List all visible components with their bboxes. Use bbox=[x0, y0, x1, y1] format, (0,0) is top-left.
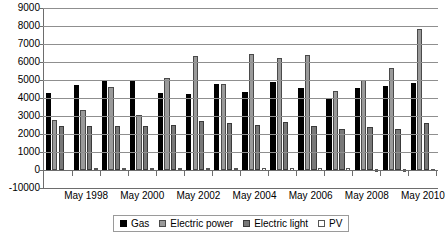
bar-gas bbox=[242, 92, 247, 170]
bar-gas bbox=[102, 80, 107, 170]
legend-swatch-epower-icon bbox=[159, 220, 166, 227]
y-tick-label: 7000 bbox=[18, 39, 40, 49]
y-tick-5000 bbox=[39, 80, 43, 81]
legend-item-epower[interactable]: Electric power bbox=[159, 219, 233, 229]
bar-epower bbox=[361, 80, 366, 170]
gridline--10000 bbox=[43, 188, 438, 189]
gridline-6000 bbox=[43, 62, 438, 63]
y-tick-3000 bbox=[39, 116, 43, 117]
bar-epower bbox=[333, 91, 338, 170]
gridline-0 bbox=[43, 170, 438, 171]
x-tick-label: May 2010 bbox=[401, 190, 445, 202]
bar-gas bbox=[158, 93, 163, 170]
bar-elight bbox=[115, 126, 120, 170]
bar-elight bbox=[283, 122, 288, 170]
legend-item-elight[interactable]: Electric light bbox=[243, 219, 308, 229]
gridline-3000 bbox=[43, 116, 438, 117]
bar-elight bbox=[87, 126, 92, 170]
legend-label: Electric light bbox=[254, 219, 308, 229]
legend-label: Gas bbox=[131, 219, 149, 229]
gridline-4000 bbox=[43, 98, 438, 99]
y-tick-2000 bbox=[39, 134, 43, 135]
y-tick-label: -10000 bbox=[9, 183, 40, 193]
x-axis-labels: May 1998May 2000May 2002May 2004May 2006… bbox=[43, 190, 438, 206]
y-tick-0 bbox=[39, 170, 43, 171]
gridline-8000 bbox=[43, 26, 438, 27]
x-tick-label: May 2002 bbox=[176, 190, 220, 202]
y-tick-4000 bbox=[39, 98, 43, 99]
bar-gas bbox=[46, 93, 51, 170]
y-tick-1000 bbox=[39, 152, 43, 153]
bar-gas bbox=[355, 88, 360, 170]
legend-swatch-elight-icon bbox=[243, 220, 250, 227]
y-tick-label: 9000 bbox=[18, 3, 40, 13]
y-tick-label: 3000 bbox=[18, 111, 40, 121]
y-tick-7000 bbox=[39, 44, 43, 45]
legend-item-pv[interactable]: PV bbox=[318, 219, 342, 229]
bar-epower bbox=[417, 29, 422, 170]
plot-area bbox=[43, 8, 438, 188]
bar-elight bbox=[311, 126, 316, 170]
bar-elight bbox=[59, 126, 64, 170]
bar-gas bbox=[270, 82, 275, 170]
legend-item-gas[interactable]: Gas bbox=[120, 219, 149, 229]
bar-epower bbox=[80, 110, 85, 170]
gridline-2000 bbox=[43, 134, 438, 135]
x-tick-label: May 2004 bbox=[233, 190, 277, 202]
y-tick-8000 bbox=[39, 26, 43, 27]
y-tick-label: 5000 bbox=[18, 75, 40, 85]
bar-gas bbox=[130, 81, 135, 170]
legend-swatch-gas-icon bbox=[120, 220, 127, 227]
plot-inner bbox=[43, 8, 438, 188]
gridline-7000 bbox=[43, 44, 438, 45]
bar-gas bbox=[214, 84, 219, 170]
bar-elight bbox=[171, 125, 176, 170]
bar-elight bbox=[424, 123, 429, 170]
bar-gas bbox=[298, 88, 303, 170]
bar-elight bbox=[255, 125, 260, 170]
legend-label: PV bbox=[329, 219, 342, 229]
x-tick-label: May 2000 bbox=[120, 190, 164, 202]
bar-epower bbox=[277, 58, 282, 171]
bar-epower bbox=[164, 78, 169, 170]
bar-elight bbox=[199, 121, 204, 170]
y-tick-label: 4000 bbox=[18, 93, 40, 103]
x-tick-label: May 1998 bbox=[64, 190, 108, 202]
y-tick-9000 bbox=[39, 8, 43, 9]
gridline-1000 bbox=[43, 152, 438, 153]
legend-label: Electric power bbox=[170, 219, 233, 229]
bar-elight bbox=[339, 129, 344, 170]
y-tick-label: 8000 bbox=[18, 21, 40, 31]
bar-gas bbox=[411, 83, 416, 170]
bar-epower bbox=[136, 115, 141, 170]
y-tick--10000 bbox=[39, 188, 43, 189]
bar-epower bbox=[389, 68, 394, 170]
gridline-9000 bbox=[43, 8, 438, 9]
title-remnant bbox=[0, 0, 444, 6]
legend-swatch-pv-icon bbox=[318, 220, 325, 227]
y-tick-label: 2000 bbox=[18, 129, 40, 139]
x-tick-label: May 2008 bbox=[345, 190, 389, 202]
gridline-5000 bbox=[43, 80, 438, 81]
bar-epower bbox=[52, 120, 57, 170]
y-tick-label: 6000 bbox=[18, 57, 40, 67]
y-tick-6000 bbox=[39, 62, 43, 63]
bar-epower bbox=[221, 84, 226, 170]
y-tick-label: 1000 bbox=[18, 147, 40, 157]
y-axis-labels: 9000800070006000500040003000200010000-10… bbox=[0, 8, 40, 188]
bar-epower bbox=[108, 87, 113, 170]
bar-elight bbox=[143, 126, 148, 170]
chart-legend: GasElectric powerElectric lightPV bbox=[113, 215, 349, 232]
x-tick-label: May 2006 bbox=[289, 190, 333, 202]
bar-elight bbox=[227, 123, 232, 170]
bar-gas bbox=[186, 94, 191, 170]
